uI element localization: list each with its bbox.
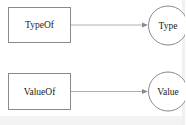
typeof-to-type-edge: [71, 23, 148, 28]
value-node[interactable]: Value: [149, 72, 186, 111]
arrowhead-icon: [142, 89, 148, 94]
diagram-canvas: TypeOf Type ValueOf Value: [0, 0, 185, 125]
valueof-node[interactable]: ValueOf: [9, 74, 71, 110]
typeof-node[interactable]: TypeOf: [9, 8, 71, 43]
typeof-label: TypeOf: [25, 20, 55, 30]
value-label: Value: [157, 87, 179, 97]
arrowhead-icon: [142, 23, 148, 28]
type-node[interactable]: Type: [149, 6, 186, 45]
valueof-label: ValueOf: [24, 87, 56, 97]
valueof-to-value-edge: [71, 89, 148, 94]
type-label: Type: [159, 21, 178, 31]
